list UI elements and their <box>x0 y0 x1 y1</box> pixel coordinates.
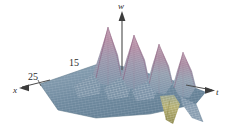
surface-plot-canvas <box>0 0 228 132</box>
axis-w <box>119 11 126 70</box>
axis-tick-label-15: 15 <box>69 58 79 68</box>
axis-label-x: x <box>13 86 17 95</box>
axis-arrow-left-icon <box>19 84 29 91</box>
axis-label-w: w <box>118 2 124 11</box>
axis-label-t: t <box>216 88 219 97</box>
axis-arrow-right-icon <box>205 87 215 94</box>
axis-arrow-up-icon <box>119 11 126 21</box>
surface-plot-figure: w x t 25 15 <box>0 0 228 132</box>
axis-tick-label-25: 25 <box>28 72 38 82</box>
wave-crest-4 <box>173 52 196 98</box>
